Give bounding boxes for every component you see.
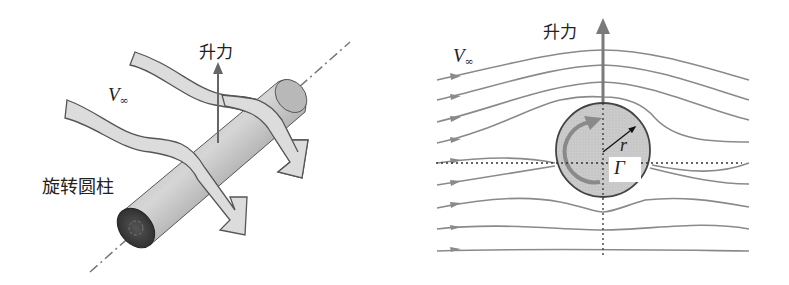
streamline-8 [437, 225, 749, 230]
right-diagram [436, 18, 749, 258]
streamline-9 [437, 249, 749, 251]
lift-label-left: 升力 [199, 38, 233, 63]
streamline-5b [652, 163, 749, 171]
streamline-arrow-icon [450, 180, 461, 186]
freestream-velocity-label-left: V∞ [108, 84, 129, 107]
infinity-subscript: ∞ [120, 94, 129, 107]
streamline-arrow-icon [450, 116, 461, 122]
magnus-effect-figure [0, 0, 789, 285]
velocity-symbol: V [108, 84, 120, 105]
lift-arrow-head-left [213, 62, 223, 74]
lift-label-right: 升力 [543, 18, 577, 43]
left-diagram [65, 42, 350, 272]
rotating-cylinder-label: 旋转圆柱 [42, 172, 114, 198]
circulation-label: Γ [614, 157, 625, 179]
radius-label: r [620, 135, 627, 156]
streamline-arrow-icon [450, 73, 461, 80]
streamline-7 [437, 198, 749, 212]
velocity-symbol: V [453, 45, 465, 66]
infinity-subscript: ∞ [465, 55, 474, 68]
streamline-arrow-icon [450, 202, 461, 208]
lift-arrow-head-right [596, 18, 610, 34]
freestream-velocity-label-right: V∞ [453, 45, 474, 68]
